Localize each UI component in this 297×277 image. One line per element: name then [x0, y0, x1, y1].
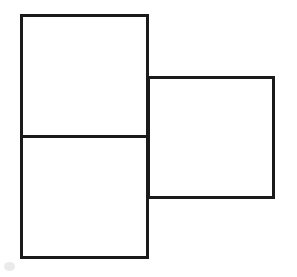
figure-canvas [0, 0, 297, 277]
right-square [148, 77, 273, 197]
scan-smudge-artifact [4, 262, 15, 271]
line-drawing-svg [0, 0, 297, 277]
